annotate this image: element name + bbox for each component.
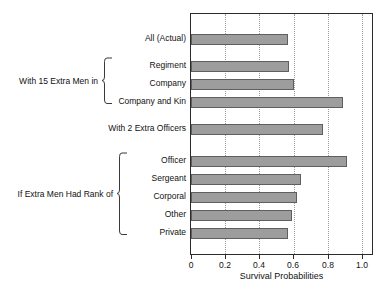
xtick-mark-0-6: [293, 255, 294, 259]
xtick-mark-1-0: [362, 255, 363, 259]
xtick-mark-0-4: [259, 255, 260, 259]
plot-panel: [190, 13, 373, 255]
bar-regiment: [191, 61, 289, 72]
xtick-label-0-8: 0.8: [322, 260, 334, 270]
bar-other: [191, 210, 292, 221]
group-label-if-extra-men-had-rank-of: If Extra Men Had Rank of: [5, 189, 113, 199]
xtick-label-1-0: 1.0: [356, 260, 368, 270]
category-label-company-and-kin: Company and Kin: [118, 96, 186, 106]
gridline-0-8: [328, 14, 330, 254]
category-label-private: Private: [160, 227, 186, 237]
category-label-sergeant: Sergeant: [152, 173, 187, 183]
group-brace-if-extra-men-had-rank-of: [116, 152, 128, 240]
xtick-mark-0-8: [328, 255, 329, 259]
bar-company: [191, 79, 294, 90]
gridline-1-0: [362, 14, 364, 254]
category-label-with-2-extra-officers: With 2 Extra Officers: [108, 123, 186, 133]
bar-corporal: [191, 192, 297, 203]
plot-inner-area: [191, 14, 372, 254]
bar-sergeant: [191, 174, 301, 185]
category-label-officer: Officer: [161, 155, 186, 165]
category-label-column: All (Actual) Regiment Company Company an…: [0, 0, 186, 255]
brace-glyph-icon: [116, 152, 128, 236]
xtick-label-0-4: 0.4: [253, 260, 265, 270]
xtick-label-0: 0: [189, 260, 194, 270]
xtick-mark-0-2: [225, 255, 226, 259]
bar-officer: [191, 156, 347, 167]
bar-company-and-kin: [191, 97, 343, 108]
xtick-mark-0: [191, 255, 192, 259]
group-label-with-15-extra-men: With 15 Extra Men in: [10, 76, 98, 86]
bar-chart-figure: All (Actual) Regiment Company Company an…: [0, 0, 392, 287]
category-label-all-actual: All (Actual): [145, 33, 186, 43]
category-label-company: Company: [150, 78, 186, 88]
brace-glyph-icon: [101, 57, 113, 105]
x-axis-title: Survival Probabilities: [190, 271, 373, 281]
category-label-corporal: Corporal: [153, 191, 186, 201]
bar-all-actual: [191, 34, 288, 45]
group-brace-with-15-extra-men: [101, 57, 113, 109]
category-label-other: Other: [165, 209, 186, 219]
xtick-label-0-2: 0.2: [219, 260, 231, 270]
bar-with-2-extra-officers: [191, 124, 323, 135]
category-label-regiment: Regiment: [150, 60, 186, 70]
bar-private: [191, 228, 288, 239]
xtick-label-0-6: 0.6: [287, 260, 299, 270]
